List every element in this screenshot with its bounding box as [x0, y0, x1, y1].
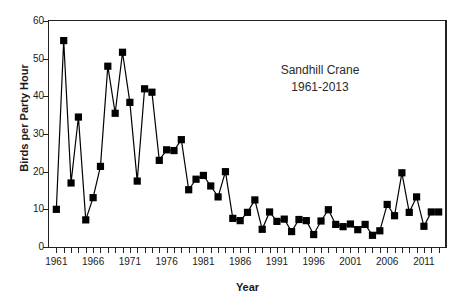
data-point [90, 194, 97, 201]
x-tick-mark [137, 248, 138, 253]
x-tick-mark [152, 248, 153, 253]
data-point [148, 89, 155, 96]
x-tick-label: 2006 [367, 256, 407, 267]
data-point [200, 172, 207, 179]
data-point [97, 163, 104, 170]
data-point [207, 182, 214, 189]
y-tick-label: 30 [4, 129, 44, 139]
x-tick-mark [71, 248, 72, 253]
x-tick-mark [372, 248, 373, 253]
x-tick-mark [292, 248, 293, 253]
y-tick-label: 20 [4, 167, 44, 177]
data-point [163, 146, 170, 153]
x-tick-mark [240, 248, 241, 253]
x-tick-mark [167, 248, 168, 253]
chart-annotation: Sandhill Crane 1961-2013 [255, 62, 385, 96]
x-tick-mark [380, 248, 381, 253]
y-tick-label: 40 [4, 91, 44, 101]
x-tick-mark [108, 248, 109, 253]
x-tick-mark [218, 248, 219, 253]
y-tick-label: 10 [4, 204, 44, 214]
x-tick-mark [336, 248, 337, 253]
data-point [104, 63, 111, 70]
x-tick-mark [284, 248, 285, 253]
x-tick-label: 1966 [73, 256, 113, 267]
x-tick-label: 1961 [36, 256, 76, 267]
data-point [347, 220, 354, 227]
x-tick-mark [262, 248, 263, 253]
x-tick-mark [145, 248, 146, 253]
x-tick-mark [424, 248, 425, 253]
x-tick-mark [431, 248, 432, 253]
data-point [222, 168, 229, 175]
x-tick-mark [314, 248, 315, 253]
x-tick-mark [248, 248, 249, 253]
x-tick-mark [181, 248, 182, 253]
data-point [325, 206, 332, 213]
data-point [170, 147, 177, 154]
data-point [303, 217, 310, 224]
x-tick-mark [115, 248, 116, 253]
data-point [53, 206, 60, 213]
data-point [266, 208, 273, 215]
data-point [413, 193, 420, 200]
x-tick-label: 1981 [183, 256, 223, 267]
data-point [119, 49, 126, 56]
x-tick-mark [299, 248, 300, 253]
annotation-species: Sandhill Crane [255, 62, 385, 79]
x-tick-mark [328, 248, 329, 253]
data-point [60, 37, 67, 44]
x-tick-label: 2001 [330, 256, 370, 267]
y-tick-label: 60 [4, 16, 44, 26]
data-point [214, 193, 221, 200]
data-point [82, 216, 89, 223]
x-tick-mark [78, 248, 79, 253]
x-tick-mark [211, 248, 212, 253]
data-point [141, 85, 148, 92]
x-tick-label: 1986 [220, 256, 260, 267]
data-point [362, 221, 369, 228]
plot-area [48, 20, 447, 248]
x-tick-label: 1976 [147, 256, 187, 267]
data-point [384, 201, 391, 208]
x-tick-label: 1991 [257, 256, 297, 267]
data-point [156, 157, 163, 164]
x-tick-mark [402, 248, 403, 253]
x-tick-mark [321, 248, 322, 253]
x-axis-title: Year [48, 281, 447, 293]
x-tick-mark [64, 248, 65, 253]
data-point [281, 216, 288, 223]
x-tick-mark [343, 248, 344, 253]
annotation-years: 1961-2013 [255, 79, 385, 96]
x-tick-mark [358, 248, 359, 253]
data-point [251, 196, 258, 203]
x-tick-label: 1971 [110, 256, 150, 267]
data-point [317, 217, 324, 224]
x-tick-mark [350, 248, 351, 253]
data-point [420, 223, 427, 230]
x-tick-mark [203, 248, 204, 253]
data-point [273, 218, 280, 225]
data-point [310, 231, 317, 238]
x-tick-mark [196, 248, 197, 253]
x-tick-mark [130, 248, 131, 253]
data-point [259, 226, 266, 233]
y-tick-label: 50 [4, 54, 44, 64]
x-tick-mark [395, 248, 396, 253]
data-point [75, 113, 82, 120]
x-tick-mark [387, 248, 388, 253]
data-point [435, 208, 442, 215]
data-point [295, 216, 302, 223]
data-point [229, 215, 236, 222]
data-point [237, 217, 244, 224]
x-tick-mark [86, 248, 87, 253]
data-point [288, 228, 295, 235]
x-tick-mark [417, 248, 418, 253]
x-tick-mark [409, 248, 410, 253]
data-point [428, 208, 435, 215]
data-point [339, 223, 346, 230]
data-point [398, 169, 405, 176]
x-tick-mark [270, 248, 271, 253]
data-point [134, 177, 141, 184]
x-tick-mark [439, 248, 440, 253]
